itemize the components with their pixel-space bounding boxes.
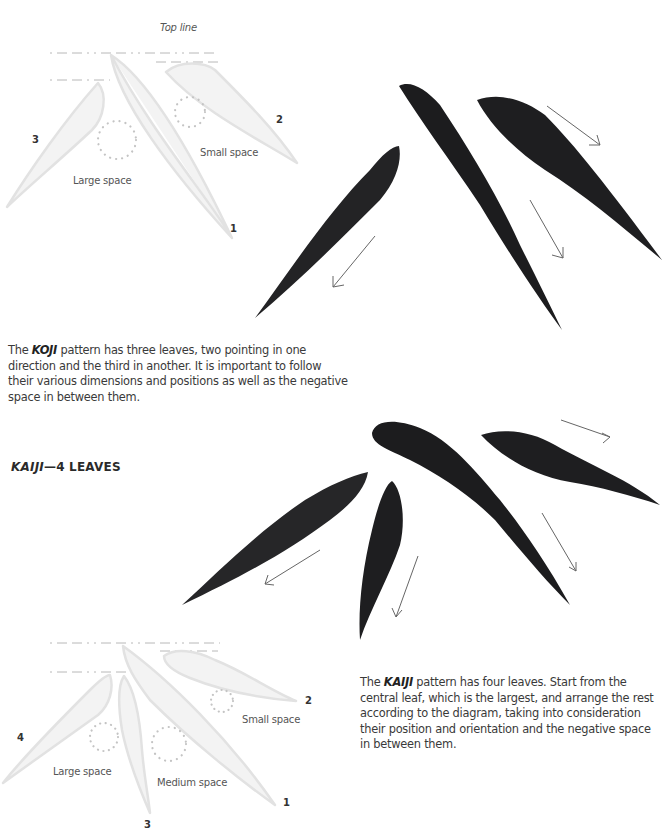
kaiji-description: The KAIJI pattern has four leaves. Start… (360, 675, 660, 753)
koji-description: The KOJI pattern has three leaves, two p… (8, 343, 348, 405)
koji-arrow-left (333, 236, 375, 287)
koji-brush-painting (255, 84, 662, 330)
kaiji-small-space-label: Small space (242, 714, 300, 725)
koji-pattern-name: KOJI (32, 343, 57, 357)
kaiji-brush-leaf-right (481, 431, 660, 505)
kaiji-small-space-circle (211, 690, 233, 712)
kaiji-leaf-number-4: 4 (17, 732, 24, 743)
koji-large-space-circle (98, 121, 136, 159)
kaiji-brush-painting (182, 420, 660, 640)
koji-leaf-number-1: 1 (230, 223, 237, 234)
kaiji-leaf-number-3: 3 (144, 819, 151, 830)
kaiji-leaf-number-2: 2 (305, 695, 312, 706)
kaiji-pattern-name: KAIJI (384, 675, 413, 689)
kaiji-large-space-label: Large space (53, 766, 111, 777)
kaiji-arrow-central (542, 513, 576, 571)
kaiji-leaf-number-1: 1 (283, 797, 290, 808)
koji-leaf-3-outline (7, 83, 104, 207)
kaiji-arrow-lower (392, 556, 418, 617)
koji-small-space-label: Small space (200, 147, 258, 158)
koji-leaf-number-3: 3 (32, 134, 39, 145)
top-line-label: Top line (160, 22, 197, 33)
kaiji-medium-space-circle (152, 727, 186, 761)
kaiji-large-space-circle (90, 723, 118, 751)
kaiji-leaf-3-outline (119, 676, 150, 813)
koji-leaf-number-2: 2 (276, 114, 283, 125)
koji-arrow-central (530, 200, 563, 258)
kaiji-heading: KAIJI—4 LEAVES (11, 460, 121, 474)
kaiji-medium-space-label: Medium space (157, 777, 227, 788)
koji-brush-leaf-left (255, 146, 400, 318)
kaiji-arrow-right (561, 420, 610, 443)
kaiji-brush-leaf-left (182, 472, 368, 605)
koji-large-space-label: Large space (73, 175, 131, 186)
